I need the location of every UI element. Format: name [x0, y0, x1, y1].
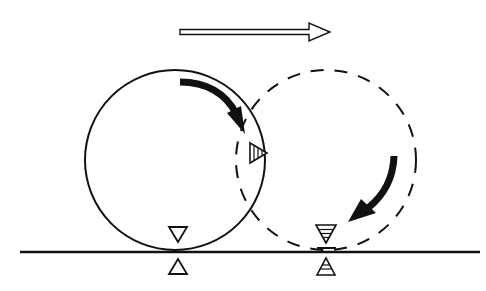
contact-marker-start-ground-icon: contact marker on ground (initial) — [169, 259, 187, 274]
rotation-arrow-end-icon: clockwise rotation (dashed wheel) — [348, 156, 394, 222]
rotation-arrow-start-icon: clockwise rotation (solid wheel) — [180, 82, 245, 134]
rolling-wheel-diagram: direction of motion wheel rolled positio… — [0, 0, 486, 291]
wheel-end-dashed: wheel rolled position — [236, 70, 416, 250]
direction-arrow-icon: direction of motion — [180, 23, 330, 41]
wheel-start-solid: wheel initial position — [85, 70, 265, 250]
contact-marker-start-wheel-icon: contact marker on wheel (initial) — [169, 227, 187, 242]
contact-marker-end-ground-icon: new contact marker on ground — [317, 258, 335, 275]
contact-marker-end-wheel-icon: new contact marker on wheel — [316, 225, 336, 248]
